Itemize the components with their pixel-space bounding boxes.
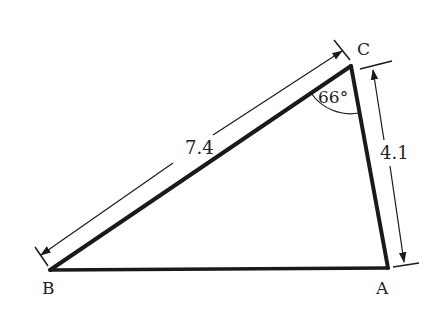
side-ab xyxy=(50,268,388,270)
dimension-line-ca-lower xyxy=(390,166,404,262)
dimension-line-ca-upper xyxy=(373,70,384,140)
tick-bc-start xyxy=(35,247,48,266)
angle-label-c: 66° xyxy=(318,87,348,107)
side-ca xyxy=(351,66,388,268)
dimension-line-bc-lower xyxy=(41,163,173,255)
side-label-bc: 7.4 xyxy=(185,137,214,158)
triangle-diagram: C B A 7.4 4.1 66° xyxy=(0,0,445,326)
vertex-label-c: C xyxy=(357,39,370,59)
tick-ca-start xyxy=(360,61,392,69)
side-label-ca: 4.1 xyxy=(380,142,409,163)
vertex-label-a: A xyxy=(375,278,389,298)
tick-ca-end xyxy=(393,263,419,267)
vertex-label-b: B xyxy=(42,278,55,298)
side-bc xyxy=(50,66,351,270)
diagram-canvas: C B A 7.4 4.1 66° xyxy=(0,0,445,326)
tick-bc-end xyxy=(334,40,350,60)
